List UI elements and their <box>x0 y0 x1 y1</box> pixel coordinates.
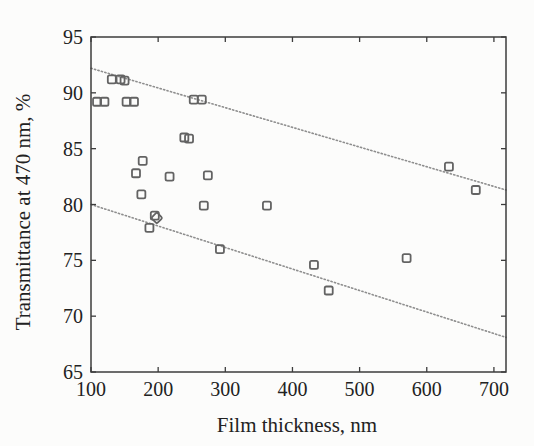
data-point-marker <box>403 254 411 262</box>
data-point-marker <box>204 171 212 179</box>
data-point-marker <box>108 75 116 83</box>
tick-labels-layer: 10020030040050060070065707580859095 <box>63 26 509 400</box>
x-axis-label: Film thickness, nm <box>217 413 377 437</box>
trend-lines-layer <box>91 68 506 337</box>
markers-layer <box>93 75 480 294</box>
x-tick-label: 200 <box>143 378 173 400</box>
y-tick-label: 80 <box>63 194 83 216</box>
x-tick-label: 700 <box>479 378 509 400</box>
y-tick-label: 90 <box>63 82 83 104</box>
y-tick-label: 85 <box>63 138 83 160</box>
data-point-marker <box>472 186 480 194</box>
data-point-marker <box>151 212 162 223</box>
data-point-marker <box>137 190 145 198</box>
y-tick-label: 65 <box>63 361 83 383</box>
data-point-marker <box>263 202 271 210</box>
data-point-marker <box>145 224 153 232</box>
y-tick-label: 95 <box>63 26 83 48</box>
y-tick-label: 70 <box>63 305 83 327</box>
scatter-plot: 10020030040050060070065707580859095 Film… <box>0 0 534 446</box>
x-tick-label: 400 <box>277 378 307 400</box>
data-point-marker <box>139 157 147 165</box>
data-point-marker <box>445 163 453 171</box>
figure: 10020030040050060070065707580859095 Film… <box>0 0 534 446</box>
data-point-marker <box>200 202 208 210</box>
data-point-marker <box>310 261 318 269</box>
data-point-marker <box>132 169 140 177</box>
data-point-marker <box>325 286 333 294</box>
trend-line-upper-bound <box>91 68 506 190</box>
x-tick-label: 600 <box>412 378 442 400</box>
data-point-marker <box>166 173 174 181</box>
y-axis-label: Transmittance at 470 nm, % <box>11 94 35 331</box>
y-tick-label: 75 <box>63 249 83 271</box>
x-tick-label: 300 <box>210 378 240 400</box>
data-point-marker <box>190 96 198 104</box>
x-tick-label: 500 <box>345 378 375 400</box>
